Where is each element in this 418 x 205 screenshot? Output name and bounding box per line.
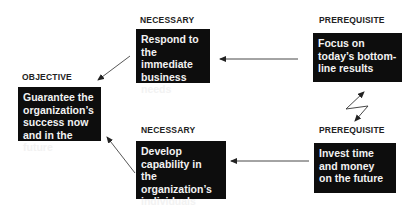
prereq-top-text: Focus on today’s bottom- line results [318,37,397,75]
objective-label: OBJECTIVE [22,72,72,82]
prereq-bottom-label: PREREQUISITE [319,125,385,135]
prereq-bottom-text: Invest time and money on the future [319,147,391,185]
necessary-bottom-label: NECESSARY [141,125,195,135]
objective-box: Guarantee the organization’s success now… [18,87,101,141]
necessary-top-text: Respond to the immediate business needs [141,33,205,96]
necessary-bottom-text: Develop capability in the organization’s… [141,145,221,205]
necessary-bottom-box: Develop capability in the organization’s… [136,141,226,199]
objective-text: Guarantee the organization’s success now… [23,91,96,154]
arrow-necessary-top-to-objective [98,56,130,80]
arrow-necessary-bottom-to-objective [107,137,135,173]
prereq-bottom-box: Invest time and money on the future [314,143,396,193]
prereq-top-box: Focus on today’s bottom- line results [313,33,402,82]
necessary-top-box: Respond to the immediate business needs [136,29,210,83]
conflict-lightning-icon [346,92,368,121]
prereq-top-label: PREREQUISITE [319,15,385,25]
necessary-top-label: NECESSARY [140,15,194,25]
